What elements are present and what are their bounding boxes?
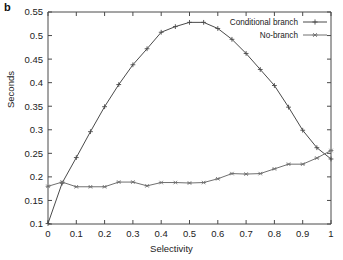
- legend-label-2: No-branch: [260, 31, 299, 40]
- y-tick-label: 0.25: [25, 148, 44, 159]
- y-tick-label: 0.4: [30, 77, 43, 88]
- y-tick-label: 0.45: [25, 54, 44, 65]
- axis-frame: [48, 12, 331, 224]
- y-tick-label: 0.35: [25, 101, 44, 112]
- x-tick-label: 0.4: [155, 228, 168, 239]
- chart-legend: Conditional branchNo-branch: [230, 18, 327, 40]
- chart-plot-area: 0.10.150.20.250.30.350.40.450.50.55 00.1…: [0, 0, 343, 260]
- figure-panel-b: b Seconds Selectivity 0.10.150.20.250.30…: [0, 0, 343, 260]
- x-tick-label: 0.9: [296, 228, 309, 239]
- x-tick-label: 0.1: [70, 228, 83, 239]
- y-tick-label: 0.55: [25, 6, 44, 17]
- x-tick-label: 0.7: [239, 228, 252, 239]
- x-tick-label: 0.5: [183, 228, 196, 239]
- x-tick-label: 0.2: [98, 228, 111, 239]
- y-tick-label: 0.2: [30, 171, 43, 182]
- y-tick-label: 0.15: [25, 195, 44, 206]
- x-tick-label: 0.3: [126, 228, 139, 239]
- y-tick-label: 0.5: [30, 30, 43, 41]
- x-tick-label: 0.8: [268, 228, 281, 239]
- y-tick-label: 0.3: [30, 124, 43, 135]
- series-2: [46, 149, 334, 189]
- series-1: [46, 20, 334, 226]
- x-tick-label: 0: [45, 228, 50, 239]
- y-tick-label: 0.1: [30, 218, 43, 229]
- x-tick-label: 1: [328, 228, 333, 239]
- legend-label-1: Conditional branch: [230, 18, 299, 27]
- x-tick-label: 0.6: [211, 228, 224, 239]
- x-axis-tick-labels: 00.10.20.30.40.50.60.70.80.91: [45, 228, 333, 239]
- y-axis-tick-labels: 0.10.150.20.250.30.350.40.450.50.55: [25, 6, 44, 229]
- data-series-layer: [46, 20, 334, 226]
